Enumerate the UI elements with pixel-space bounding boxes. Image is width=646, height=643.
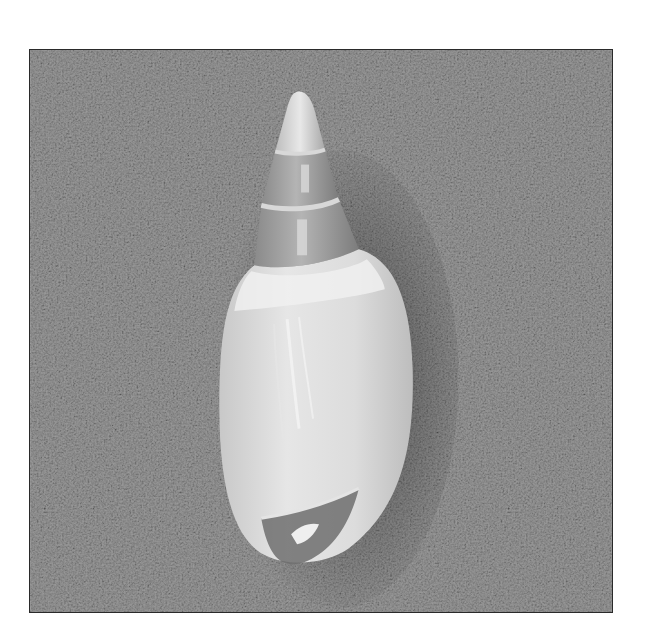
shell-photo xyxy=(30,50,612,612)
photo-frame xyxy=(29,49,613,613)
